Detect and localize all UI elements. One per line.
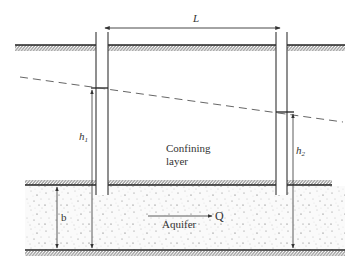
length-dimension: L xyxy=(105,12,280,28)
length-label: L xyxy=(192,12,199,24)
aquifer-base xyxy=(25,250,345,256)
head-2-subscript: 2 xyxy=(302,150,306,158)
head-1-subscript: 1 xyxy=(85,136,89,144)
ground-surface xyxy=(15,45,345,51)
discharge-label: Q xyxy=(215,209,224,223)
potentiometric-surface xyxy=(20,77,343,122)
confining-layer-label-line2: layer xyxy=(166,155,188,167)
aquifer-label: Aquifer xyxy=(162,218,197,230)
svg-text:h2: h2 xyxy=(296,144,306,158)
aquifer-diagram: L h1 h2 b Confining layer Q Aquifer xyxy=(0,0,359,274)
confining-layer-label: Confining xyxy=(166,142,211,154)
thickness-label: b xyxy=(61,211,67,223)
svg-text:h1: h1 xyxy=(79,130,88,144)
left-well xyxy=(91,32,108,195)
